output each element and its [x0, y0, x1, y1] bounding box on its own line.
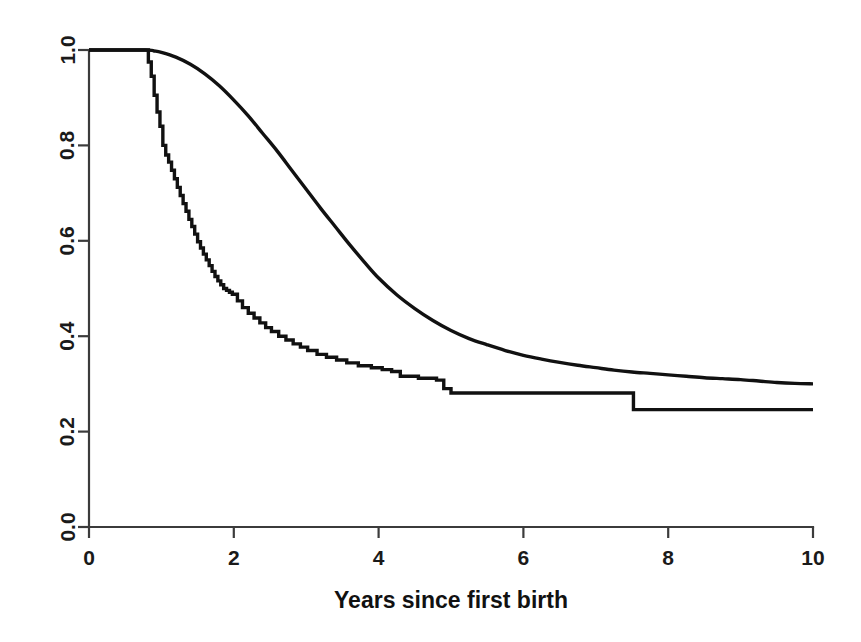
- x-axis-tick-labels: 0246810: [83, 546, 825, 569]
- data-series-group: [89, 50, 813, 410]
- y-tick-label: 0.0: [56, 512, 79, 541]
- x-tick-label: 0: [83, 546, 95, 569]
- y-axis: 0.00.20.40.60.81.0: [56, 35, 90, 541]
- x-axis: 0246810: [83, 527, 825, 569]
- y-tick-label: 0.8: [56, 130, 79, 160]
- y-tick-label: 0.6: [56, 226, 79, 255]
- step-survival-curve: [89, 50, 813, 410]
- x-axis-title: Years since first birth: [334, 587, 568, 613]
- y-axis-ticks: [78, 50, 89, 527]
- y-tick-label: 1.0: [56, 35, 79, 64]
- x-tick-label: 4: [373, 546, 385, 569]
- chart-figure: 0.00.20.40.60.81.0 0246810 Years since f…: [0, 0, 861, 642]
- survival-curve-plot: 0.00.20.40.60.81.0 0246810 Years since f…: [0, 0, 861, 642]
- x-axis-ticks: [89, 527, 813, 538]
- x-tick-label: 10: [801, 546, 824, 569]
- y-axis-tick-labels: 0.00.20.40.60.81.0: [56, 35, 79, 541]
- smooth-survival-curve: [89, 50, 813, 384]
- y-tick-label: 0.2: [56, 417, 79, 446]
- x-tick-label: 2: [228, 546, 240, 569]
- y-tick-label: 0.4: [56, 321, 79, 351]
- x-tick-label: 8: [662, 546, 674, 569]
- x-tick-label: 6: [518, 546, 530, 569]
